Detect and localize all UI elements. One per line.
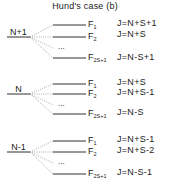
- hunds-case-b-diagram: Hund's case (b): [0, 0, 170, 180]
- j-value: J=N-S: [117, 107, 144, 117]
- j-value: J=N+S-2: [117, 145, 155, 155]
- j-value: J=N+S-1: [117, 134, 155, 144]
- f2s1-label: F2S+1: [88, 168, 107, 180]
- level-label-n-plus-1: N+1: [7, 27, 30, 37]
- level-label-n-minus-1: N-1: [7, 142, 30, 152]
- ellipsis: ...: [58, 42, 65, 52]
- f2s1-label: F2S+1: [88, 52, 107, 65]
- j-value: J=N+S-1: [117, 87, 155, 97]
- ellipsis: ...: [58, 99, 65, 109]
- f2-label: F2: [88, 31, 97, 44]
- j-value: J=N+S+1: [117, 18, 157, 28]
- j-value: J=N+S: [117, 29, 146, 39]
- f2-label: F2: [88, 146, 97, 159]
- j-value: J=N+S: [117, 77, 146, 87]
- ellipsis: ...: [58, 157, 65, 167]
- j-value: J=N-S-1: [117, 167, 152, 177]
- level-label-n: N: [7, 84, 30, 94]
- f2-label: F2: [88, 88, 97, 101]
- f2s1-label: F2S+1: [88, 108, 107, 121]
- j-value: J=N-S+1: [117, 52, 155, 62]
